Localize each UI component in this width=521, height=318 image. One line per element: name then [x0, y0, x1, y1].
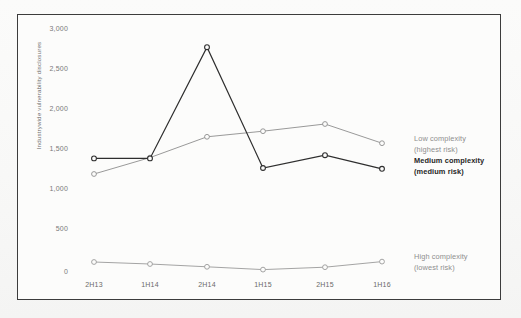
series-data-point	[323, 153, 328, 158]
series-line	[94, 124, 382, 174]
series-data-point	[323, 265, 328, 270]
series-data-point	[148, 262, 153, 267]
series-data-point	[380, 141, 385, 146]
series-data-point	[380, 166, 385, 171]
plot-area: Industrywide vulnerability disclosures 3…	[0, 0, 521, 318]
series-data-point	[323, 122, 328, 127]
legend-high-line1: High complexity	[414, 252, 468, 261]
series-line	[94, 47, 382, 169]
series-data-point	[205, 134, 210, 139]
legend-high-line2: (lowest risk)	[414, 263, 468, 274]
series-data-point	[205, 45, 210, 50]
series-data-point	[92, 172, 97, 177]
series-line	[94, 262, 382, 270]
legend-low-line2: (highest risk)	[414, 145, 466, 156]
series-data-point	[92, 260, 97, 265]
series-data-point	[92, 156, 97, 161]
legend-low-complexity: Low complexity (highest risk)	[414, 134, 466, 155]
legend-medium-line1: Medium complexity	[414, 156, 484, 165]
legend-high-complexity: High complexity (lowest risk)	[414, 252, 468, 273]
legend-low-line1: Low complexity	[414, 134, 466, 143]
figure-page: Industrywide vulnerability disclosures 3…	[0, 0, 521, 318]
series-data-point	[205, 264, 210, 269]
legend-medium-complexity: Medium complexity (medium risk)	[414, 156, 484, 177]
series-data-point	[261, 129, 266, 134]
series-data-point	[261, 267, 266, 272]
series-data-point	[380, 259, 385, 264]
series-data-point	[148, 156, 153, 161]
legend-medium-line2: (medium risk)	[414, 167, 484, 178]
series-data-point	[261, 166, 266, 171]
